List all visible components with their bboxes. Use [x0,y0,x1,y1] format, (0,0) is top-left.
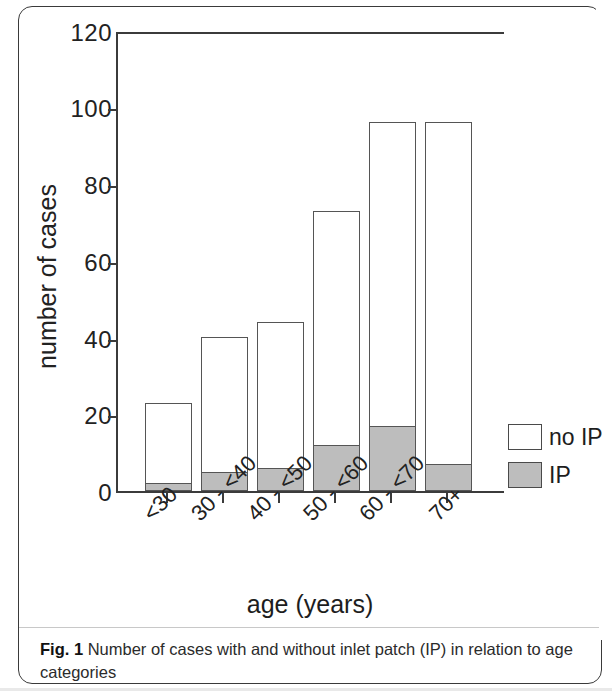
caption-divider [19,627,599,628]
plot-area [116,32,504,493]
y-tick-label-60: 60 [8,249,112,277]
legend-swatch-no-ip-icon [508,424,542,450]
bar--30 [145,403,192,491]
y-tick-label-0: 0 [8,479,112,507]
y-tick-label-100: 100 [8,95,112,123]
figure-caption-text: Number of cases with and without inlet p… [40,640,573,681]
y-axis-tick-labels: 0 20 40 60 80 100 120 [0,0,112,520]
bar-70+ [425,122,472,491]
legend-swatch-ip-icon [508,462,542,488]
bar-segment-no-ip [425,122,472,491]
y-tick-label-40: 40 [8,326,112,354]
y-tick-label-120: 120 [8,19,112,47]
legend-entry-ip: IP [508,456,608,494]
y-tick-label-20: 20 [8,402,112,430]
chart-canvas: number of cases 0 20 40 60 80 100 120 <3… [0,0,612,691]
bar-60-70 [369,122,416,491]
bar-50-60 [313,211,360,491]
bar-segment-no-ip [145,403,192,491]
figure-caption: Fig. 1 Number of cases with and without … [40,638,586,684]
x-axis-title: age (years) [116,590,504,619]
y-tick-label-80: 80 [8,172,112,200]
figure-caption-label: Fig. 1 [40,640,83,658]
legend-entry-no-ip: no IP [508,418,608,456]
chart-legend: no IP IP [508,418,608,494]
legend-label-no-ip: no IP [549,424,603,451]
legend-label-ip: IP [549,462,571,489]
